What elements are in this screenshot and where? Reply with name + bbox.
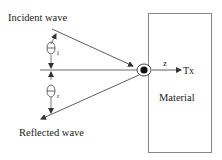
incident-ray	[52, 29, 133, 66]
material-label: Material	[159, 92, 195, 103]
theta-r-subscript: r	[57, 92, 60, 100]
reflected-ray	[41, 75, 139, 119]
z-axis-label: z	[163, 58, 167, 68]
tx-label: Tx	[183, 65, 194, 76]
incident-wave-label: Incident wave	[8, 12, 68, 23]
material-box	[149, 14, 212, 153]
source-dot	[140, 66, 147, 73]
theta-i-subscript: i	[57, 49, 59, 57]
reflected-wave-label: Reflected wave	[19, 127, 84, 138]
wave-reflection-diagram: i r z Tx Incident wave Reflected wave Ma…	[0, 0, 222, 160]
